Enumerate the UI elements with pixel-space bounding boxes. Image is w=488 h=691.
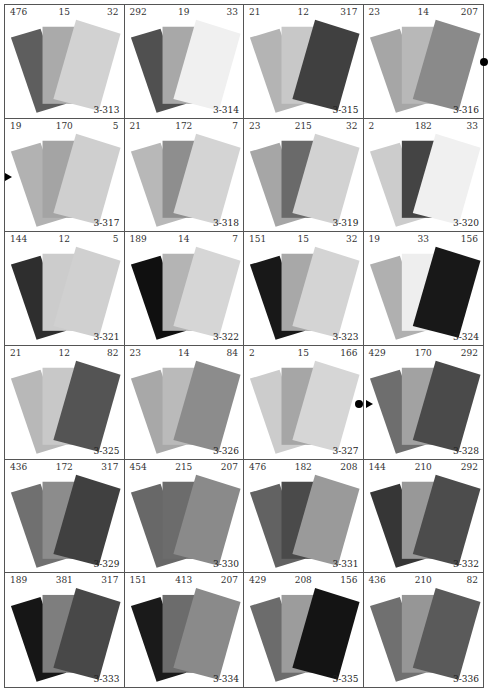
- color-cards: [5, 573, 124, 687]
- color-number-3: 166: [340, 349, 357, 358]
- swatch-cell: 2151663-327: [244, 346, 364, 460]
- color-number-3: 32: [107, 8, 118, 17]
- swatch-code: 3-320: [453, 219, 479, 228]
- color-number-2: 12: [59, 235, 70, 244]
- color-number-3: 84: [227, 349, 238, 358]
- color-number-2: 15: [298, 349, 309, 358]
- swatch-code: 3-321: [94, 333, 120, 342]
- dot-marker-icon: [480, 58, 488, 66]
- color-number-3: 156: [340, 576, 357, 585]
- color-number-1: 19: [10, 122, 21, 131]
- swatch-code: 3-331: [333, 560, 359, 569]
- swatch-cell: 1442102923-332: [364, 460, 484, 574]
- color-number-2: 15: [298, 235, 309, 244]
- color-number-1: 2: [249, 349, 255, 358]
- color-number-3: 7: [232, 235, 238, 244]
- color-number-2: 182: [295, 463, 312, 472]
- color-cards: [5, 460, 124, 573]
- color-cards: [5, 232, 124, 345]
- color-cards: [244, 573, 363, 687]
- swatch-code: 3-329: [94, 560, 120, 569]
- color-number-3: 82: [107, 349, 118, 358]
- swatch-grid: 47615323-31329219333-31421123173-3152314…: [5, 5, 483, 687]
- color-number-1: 476: [10, 8, 27, 17]
- color-number-1: 21: [10, 349, 21, 358]
- color-number-1: 189: [130, 235, 147, 244]
- color-cards: [244, 232, 363, 345]
- swatch-code: 3-319: [333, 219, 359, 228]
- color-number-1: 2: [369, 122, 375, 131]
- swatch-code: 3-318: [213, 219, 239, 228]
- color-number-3: 5: [113, 122, 119, 131]
- color-number-1: 144: [10, 235, 27, 244]
- swatch-cell: 47615323-313: [5, 5, 125, 119]
- swatch-cell: 15115323-323: [244, 232, 364, 346]
- swatch-cell: 2117273-318: [125, 119, 245, 233]
- color-number-3: 82: [467, 576, 478, 585]
- color-cards: [364, 573, 484, 687]
- color-number-1: 436: [10, 463, 27, 472]
- color-number-3: 292: [461, 349, 478, 358]
- color-number-2: 172: [56, 463, 73, 472]
- color-number-1: 436: [369, 576, 386, 585]
- color-cards: [5, 119, 124, 232]
- color-number-1: 23: [249, 122, 260, 131]
- swatch-code: 3-334: [213, 675, 239, 684]
- triangle-marker-icon: [366, 400, 373, 408]
- color-number-3: 317: [101, 576, 118, 585]
- swatch-code: 3-323: [333, 333, 359, 342]
- color-number-1: 144: [369, 463, 386, 472]
- swatch-cell: 436210823-336: [364, 573, 484, 687]
- color-cards: [364, 5, 484, 118]
- color-number-3: 33: [467, 122, 478, 131]
- color-number-3: 5: [113, 235, 119, 244]
- dot-marker-icon: [355, 400, 363, 408]
- color-number-2: 15: [59, 8, 70, 17]
- color-number-1: 23: [369, 8, 380, 17]
- swatch-code: 3-325: [94, 447, 120, 456]
- color-number-2: 172: [175, 122, 192, 131]
- color-cards: [125, 232, 244, 345]
- swatch-code: 3-322: [213, 333, 239, 342]
- swatch-code: 3-336: [453, 675, 479, 684]
- swatch-cell: 2314843-326: [125, 346, 245, 460]
- color-cards: [244, 119, 363, 232]
- color-number-1: 454: [130, 463, 147, 472]
- color-number-2: 215: [295, 122, 312, 131]
- color-cards: [244, 5, 363, 118]
- color-cards: [364, 119, 484, 232]
- swatch-code: 3-314: [213, 106, 239, 115]
- color-number-1: 151: [130, 576, 147, 585]
- color-number-2: 14: [178, 349, 189, 358]
- color-number-2: 12: [59, 349, 70, 358]
- color-number-3: 32: [346, 235, 357, 244]
- color-cards: [244, 346, 363, 459]
- color-number-3: 317: [340, 8, 357, 17]
- color-number-3: 207: [221, 463, 238, 472]
- swatch-cell: 1893813173-333: [5, 573, 125, 687]
- color-number-1: 189: [10, 576, 27, 585]
- color-number-2: 210: [415, 576, 432, 585]
- color-number-2: 182: [415, 122, 432, 131]
- color-number-2: 215: [175, 463, 192, 472]
- swatch-code: 3-327: [333, 447, 359, 456]
- color-cards: [364, 346, 484, 459]
- color-number-2: 14: [418, 8, 429, 17]
- color-cards: [125, 460, 244, 573]
- swatch-cell: 21123173-315: [244, 5, 364, 119]
- swatch-code: 3-316: [453, 106, 479, 115]
- color-number-2: 19: [178, 8, 189, 17]
- swatch-cell: 4542152073-330: [125, 460, 245, 574]
- swatch-cell: 19331563-324: [364, 232, 484, 346]
- color-cards: [364, 460, 484, 573]
- swatch-cell: 1514132073-334: [125, 573, 245, 687]
- color-number-3: 32: [346, 122, 357, 131]
- color-number-2: 33: [418, 235, 429, 244]
- color-number-3: 317: [101, 463, 118, 472]
- color-number-2: 12: [298, 8, 309, 17]
- color-number-3: 292: [461, 463, 478, 472]
- color-number-1: 292: [130, 8, 147, 17]
- color-cards: [125, 5, 244, 118]
- swatch-code: 3-332: [453, 560, 479, 569]
- color-number-1: 476: [249, 463, 266, 472]
